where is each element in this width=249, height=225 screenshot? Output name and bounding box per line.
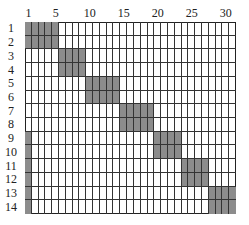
grid-cell xyxy=(209,132,216,146)
grid-cell xyxy=(148,104,155,118)
grid-cell xyxy=(209,63,216,77)
grid-cell xyxy=(79,173,86,187)
row-label: 5 xyxy=(0,77,22,90)
grid-cell xyxy=(154,36,161,50)
grid-cell xyxy=(25,36,32,50)
grid-cell xyxy=(195,49,202,63)
grid-cell xyxy=(86,118,93,132)
grid-cell xyxy=(141,132,148,146)
grid-cell xyxy=(120,22,127,36)
grid-cell xyxy=(113,118,120,132)
grid-cell xyxy=(222,49,229,63)
grid-cell xyxy=(45,22,52,36)
grid-cell xyxy=(59,173,66,187)
grid-cell xyxy=(168,104,175,118)
grid-cell xyxy=(195,91,202,105)
grid-cell xyxy=(188,187,195,201)
grid-cell xyxy=(107,187,114,201)
grid-cell xyxy=(39,159,46,173)
grid-cell xyxy=(195,159,202,173)
grid-cell xyxy=(107,145,114,159)
grid-cell xyxy=(25,77,32,91)
grid-cell xyxy=(45,36,52,50)
grid-cell xyxy=(86,200,93,214)
grid-cell xyxy=(127,132,134,146)
grid-cell xyxy=(100,104,107,118)
grid-cell xyxy=(168,63,175,77)
grid-cell xyxy=(229,22,236,36)
grid-cell xyxy=(154,159,161,173)
grid-cell xyxy=(161,145,168,159)
grid-cell xyxy=(161,91,168,105)
grid-cell xyxy=(168,173,175,187)
grid-cell xyxy=(32,159,39,173)
grid-cell xyxy=(39,173,46,187)
grid-cell xyxy=(134,22,141,36)
grid-cell xyxy=(79,104,86,118)
grid-cell xyxy=(45,91,52,105)
grid-cell xyxy=(209,173,216,187)
grid-cell xyxy=(188,118,195,132)
grid-cell xyxy=(134,132,141,146)
grid-cell xyxy=(32,63,39,77)
grid-cell xyxy=(39,200,46,214)
grid-cell xyxy=(134,145,141,159)
grid-cell xyxy=(209,145,216,159)
grid-cell xyxy=(229,173,236,187)
grid-cell xyxy=(229,77,236,91)
grid-cell xyxy=(113,91,120,105)
grid-cell xyxy=(73,49,80,63)
grid-cell xyxy=(195,145,202,159)
grid-cell xyxy=(175,63,182,77)
grid-cell xyxy=(175,173,182,187)
grid-cell xyxy=(141,200,148,214)
grid-cell xyxy=(52,173,59,187)
grid-cell xyxy=(86,132,93,146)
grid-cell xyxy=(209,200,216,214)
grid-cell xyxy=(222,187,229,201)
grid-cell xyxy=(73,63,80,77)
grid-cell xyxy=(195,104,202,118)
grid-cell xyxy=(216,187,223,201)
grid-cell xyxy=(127,200,134,214)
grid-cell xyxy=(32,132,39,146)
grid-cell xyxy=(79,118,86,132)
grid-cell xyxy=(229,200,236,214)
grid-cell xyxy=(175,36,182,50)
grid-cell xyxy=(66,200,73,214)
grid-cell xyxy=(202,49,209,63)
grid-cell xyxy=(66,22,73,36)
grid-cell xyxy=(134,77,141,91)
grid-cell xyxy=(134,187,141,201)
grid-cell xyxy=(39,77,46,91)
row-label: 10 xyxy=(0,146,22,159)
grid-cell xyxy=(148,173,155,187)
grid-cell xyxy=(52,145,59,159)
grid-cell xyxy=(154,118,161,132)
grid-cell xyxy=(148,77,155,91)
grid-cell xyxy=(134,173,141,187)
grid-cell xyxy=(25,132,32,146)
grid-cell xyxy=(86,77,93,91)
row-label: 3 xyxy=(0,50,22,63)
grid-cell xyxy=(209,118,216,132)
grid-cell xyxy=(141,63,148,77)
grid-cell xyxy=(100,36,107,50)
grid-cell xyxy=(168,159,175,173)
grid-cell xyxy=(59,63,66,77)
grid-cell xyxy=(73,173,80,187)
grid-cell xyxy=(25,104,32,118)
grid-cell xyxy=(59,118,66,132)
grid-cell xyxy=(45,49,52,63)
grid-cell xyxy=(45,187,52,201)
grid-cell xyxy=(134,91,141,105)
grid-cell xyxy=(120,187,127,201)
grid-cell xyxy=(175,77,182,91)
grid-cell xyxy=(175,104,182,118)
column-label: 1 xyxy=(25,7,31,19)
row-label: 2 xyxy=(0,36,22,49)
grid-cell xyxy=(113,77,120,91)
grid-cell xyxy=(168,145,175,159)
grid-cell xyxy=(161,22,168,36)
grid-cell xyxy=(195,77,202,91)
